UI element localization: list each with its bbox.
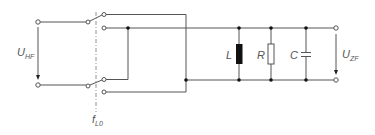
junction-dot bbox=[126, 26, 130, 30]
inductor-body bbox=[236, 44, 243, 64]
output-voltage-label: UZF bbox=[342, 48, 359, 62]
junction-dot bbox=[184, 78, 188, 82]
inductor-label: L bbox=[226, 49, 232, 61]
output-terminal-bottom bbox=[334, 78, 338, 82]
switch-contact-b bbox=[102, 90, 106, 94]
arrow-head-icon bbox=[36, 75, 40, 80]
switch-contact-a bbox=[102, 13, 106, 17]
switch-wiring bbox=[106, 15, 335, 93]
arrow-head-icon bbox=[334, 70, 338, 75]
input-terminal-bottom bbox=[36, 83, 40, 87]
output-terminals bbox=[334, 26, 338, 82]
input-terminals bbox=[36, 20, 86, 87]
inductor: L bbox=[226, 26, 243, 82]
switch-contact-a bbox=[102, 78, 106, 82]
switch-pivot bbox=[86, 84, 90, 88]
switch-contact-b bbox=[102, 26, 106, 30]
capacitor: C bbox=[290, 26, 311, 82]
switch-pivot bbox=[86, 20, 90, 24]
circuit-diagram: L R C UHF UZF fL0 bbox=[0, 0, 375, 135]
output-terminal-top bbox=[334, 26, 338, 30]
input-voltage-label: UHF bbox=[17, 46, 35, 60]
resistor-label: R bbox=[257, 49, 265, 61]
resistor: R bbox=[257, 26, 274, 82]
local-oscillator-label: fL0 bbox=[92, 113, 103, 127]
input-terminal-top bbox=[36, 20, 40, 24]
resistor-body bbox=[268, 44, 274, 64]
capacitor-label: C bbox=[290, 49, 298, 61]
